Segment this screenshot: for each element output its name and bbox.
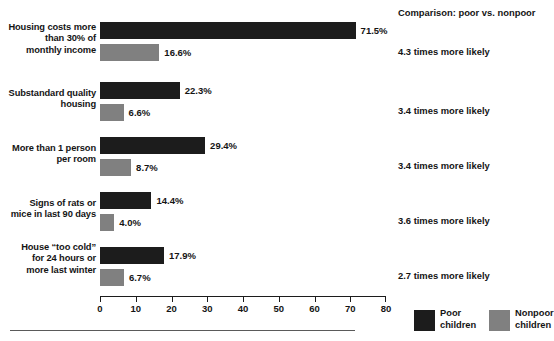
bar-value: 17.9%: [169, 247, 196, 264]
bar-value: 71.5%: [361, 22, 388, 39]
bar-poor: [100, 22, 356, 39]
x-axis: [100, 296, 386, 303]
bar-poor: [100, 247, 164, 264]
category-label: Housing costs more than 30% of monthly i…: [0, 22, 96, 56]
bar-nonpoor: [100, 269, 124, 286]
bar-value: 29.4%: [210, 137, 237, 154]
bar-value: 6.6%: [129, 104, 151, 121]
bar-value: 8.7%: [136, 159, 158, 176]
axis-tick: [350, 296, 351, 302]
comparison-item: 3.4 times more likely: [398, 105, 490, 116]
legend: Poor children Nonpoor children: [414, 308, 551, 338]
axis-tick: [172, 296, 173, 302]
bar-value: 22.3%: [185, 82, 212, 99]
bar-poor: [100, 137, 205, 154]
category-label: More than 1 person per room: [0, 143, 96, 166]
axis-tick: [243, 296, 244, 302]
legend-label: Nonpoor children: [515, 308, 554, 331]
comparison-item: 2.7 times more likely: [398, 270, 490, 281]
axis-tick: [279, 296, 280, 302]
axis-tick: [100, 296, 101, 302]
axis-tick: [385, 296, 386, 302]
footer-rule: [10, 330, 355, 331]
axis-tick: [315, 296, 316, 302]
bar-value: 14.4%: [156, 192, 183, 209]
legend-swatch-icon: [489, 310, 510, 331]
bar-nonpoor: [100, 159, 131, 176]
legend-swatch-icon: [414, 310, 435, 331]
comparison-item: 3.6 times more likely: [398, 215, 490, 226]
category-label: Signs of rats or mice in last 90 days: [0, 198, 96, 221]
bar-nonpoor: [100, 44, 159, 61]
axis-tick-label: 80: [366, 303, 406, 314]
axis-tick: [207, 296, 208, 302]
axis-tick-label: 40: [223, 303, 263, 314]
bar-poor: [100, 82, 180, 99]
bar-nonpoor: [100, 214, 114, 231]
legend-label: Poor children: [440, 308, 476, 331]
bar-nonpoor: [100, 104, 124, 121]
bar-poor: [100, 192, 151, 209]
axis-tick-label: 20: [152, 303, 192, 314]
bar-value: 16.6%: [164, 44, 191, 61]
category-label: Substandard quality housing: [0, 88, 96, 111]
axis-tick-label: 50: [259, 303, 299, 314]
axis-tick-label: 60: [295, 303, 335, 314]
axis-tick: [136, 296, 137, 302]
axis-tick-label: 10: [116, 303, 156, 314]
axis-tick-label: 70: [330, 303, 370, 314]
bar-value: 6.7%: [129, 269, 151, 286]
comparison-item: 3.4 times more likely: [398, 160, 490, 171]
axis-tick-label: 30: [187, 303, 227, 314]
axis-tick-label: 0: [80, 303, 120, 314]
comparison-header: Comparison: poor vs. nonpoor: [398, 7, 536, 18]
bar-value: 4.0%: [119, 214, 141, 231]
category-label: House “too cold” for 24 hours or more la…: [0, 242, 96, 276]
comparison-item: 4.3 times more likely: [398, 46, 490, 57]
